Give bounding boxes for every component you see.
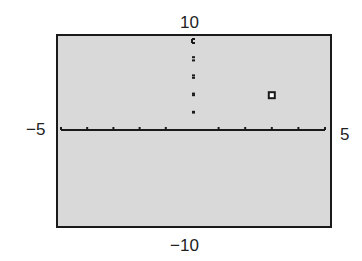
data-point-marker xyxy=(269,92,275,98)
plot-area xyxy=(0,0,362,261)
